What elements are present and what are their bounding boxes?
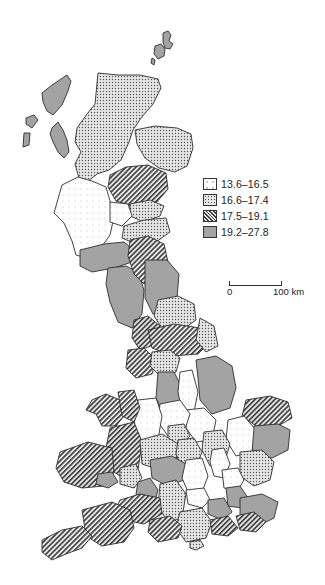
legend-row-13.6-16.5: 13.6–16.5	[203, 176, 269, 192]
legend-row-19.2-27.8: 19.2–27.8	[203, 224, 269, 240]
region-cornwall	[42, 526, 92, 560]
region-west-sussex	[210, 516, 238, 536]
region-gloucestershire	[150, 456, 186, 486]
region-norfolk	[242, 396, 292, 426]
region-tayside	[108, 165, 168, 207]
legend-label: 16.6–17.4	[221, 194, 269, 206]
region-gwynedd	[86, 394, 124, 426]
diagonal-hatch-swatch-icon	[203, 210, 217, 222]
sparse-dots-swatch-icon	[203, 178, 217, 190]
legend-label: 13.6–16.5	[221, 178, 269, 190]
scale-end-label: 100 km	[273, 286, 304, 297]
region-orkney	[151, 44, 165, 65]
solid-grey-swatch-icon	[203, 226, 217, 238]
region-lincolnshire	[196, 356, 236, 414]
region-oxfordshire	[182, 458, 208, 492]
legend-row-16.6-17.4: 16.6–17.4	[203, 192, 269, 208]
scale-bar: 0 100 km	[229, 272, 319, 296]
region-berkshire	[186, 488, 210, 508]
scale-start-label: 0	[227, 286, 232, 297]
dense-dots-swatch-icon	[203, 194, 217, 206]
region-shetland	[163, 31, 173, 49]
map-legend: 13.6–16.5 16.6–17.4 17.5–19.1 19.2–27.8	[203, 176, 269, 240]
region-central	[110, 202, 132, 226]
region-devon	[82, 502, 134, 546]
region-isle-of-wight	[190, 540, 204, 550]
region-skye	[50, 122, 69, 158]
legend-row-17.5-19.1: 17.5–19.1	[203, 208, 269, 224]
legend-label: 17.5–19.1	[221, 210, 269, 222]
legend-label: 19.2–27.8	[221, 226, 269, 238]
